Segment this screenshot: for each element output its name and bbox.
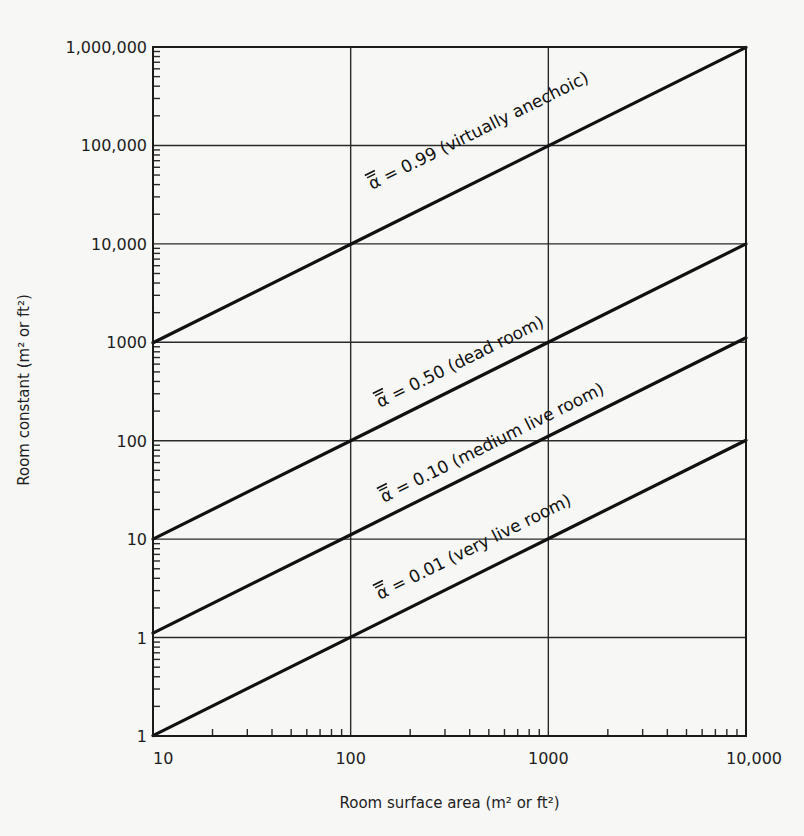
series-labels: α = 0.99 (virtually anechoic)α = 0.50 (d… (365, 67, 607, 603)
series-line-alpha-0-5 (153, 244, 746, 539)
y-tick-label: 1 (137, 629, 147, 648)
x-tick-label: 10 (153, 749, 173, 768)
room-constant-chart: α = 0.99 (virtually anechoic)α = 0.50 (d… (0, 0, 804, 836)
y-tick-label: 1000 (106, 333, 147, 352)
y-axis-tick-labels: 1110100100010,000100,0001,000,000 (66, 38, 147, 746)
y-tick-label: 100,000 (81, 136, 147, 155)
y-tick-label: 1 (137, 727, 147, 746)
series-label-1: α = 0.99 (virtually anechoic) (365, 67, 592, 193)
y-tick-label: 10 (127, 530, 147, 549)
x-tick-label: 100 (335, 749, 366, 768)
series-label-2: α = 0.50 (dead room) (373, 311, 547, 411)
y-axis-title: Room constant (m² or ft²) (15, 294, 33, 486)
y-tick-label: 1,000,000 (66, 38, 147, 57)
x-tick-label: 1000 (528, 749, 569, 768)
y-tick-label: 10,000 (91, 235, 147, 254)
series-line-alpha-0-99 (153, 47, 746, 342)
x-tick-label: 10,000 (726, 749, 782, 768)
y-tick-label: 100 (116, 432, 147, 451)
x-axis-title: Room surface area (m² or ft²) (339, 794, 559, 812)
series-label-3: α = 0.10 (medium live room) (377, 378, 607, 506)
x-axis-tick-labels: 10100100010,000 (153, 749, 782, 768)
